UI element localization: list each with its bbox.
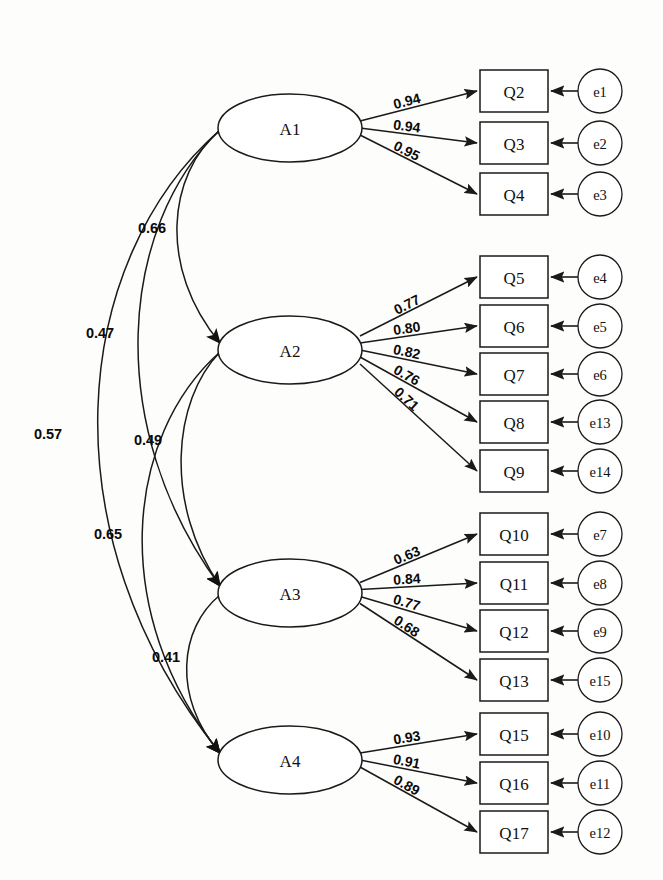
loading-label-a3-q12: 0.77 bbox=[391, 591, 422, 614]
error-label-e4: e4 bbox=[593, 270, 607, 286]
indicator-label-q15: Q15 bbox=[499, 726, 528, 745]
loading-path-a1-q4 bbox=[360, 135, 477, 194]
loading-label-a2-q5: 0.77 bbox=[391, 291, 423, 318]
loading-path-a4-q17 bbox=[360, 767, 477, 832]
indicator-label-q12: Q12 bbox=[499, 623, 528, 642]
loading-label-a3-q13: 0.68 bbox=[391, 612, 423, 640]
covariance-label-a1-a4: 0.57 bbox=[34, 426, 62, 442]
indicator-label-q10: Q10 bbox=[499, 526, 528, 545]
error-path-layer bbox=[551, 91, 578, 832]
error-label-e11: e11 bbox=[590, 776, 610, 792]
loading-label-a1-q2: 0.94 bbox=[392, 90, 423, 112]
covariance-path-a1-a2 bbox=[177, 130, 220, 343]
error-label-e13: e13 bbox=[590, 415, 611, 431]
error-label-e1: e1 bbox=[593, 84, 607, 100]
covariance-path-a3-a4 bbox=[187, 595, 220, 753]
diagram-canvas: 0.660.470.570.490.650.410.94Q2e10.94Q3e2… bbox=[0, 0, 663, 880]
covariance-path-a1-a3 bbox=[138, 130, 220, 586]
loading-label-a2-q8: 0.76 bbox=[391, 361, 423, 388]
loading-label-a1-q4: 0.95 bbox=[391, 137, 423, 164]
error-label-e9: e9 bbox=[593, 624, 607, 640]
indicator-label-q11: Q11 bbox=[500, 575, 529, 594]
loading-label-a2-q7: 0.82 bbox=[392, 341, 422, 362]
error-label-e14: e14 bbox=[590, 464, 612, 480]
loading-path-a2-q8 bbox=[360, 357, 477, 422]
error-label-e5: e5 bbox=[593, 319, 607, 335]
indicator-label-q13: Q13 bbox=[499, 672, 528, 691]
factor-label-a3: A3 bbox=[280, 585, 301, 604]
loading-label-a4-q17: 0.89 bbox=[391, 771, 423, 798]
indicator-label-q7: Q7 bbox=[504, 366, 525, 385]
covariance-label-a2-a4: 0.65 bbox=[94, 526, 122, 542]
indicator-label-q5: Q5 bbox=[504, 269, 525, 288]
error-label-e2: e2 bbox=[593, 136, 607, 152]
factor-loading-layer bbox=[360, 91, 477, 832]
sem-path-diagram: 0.660.470.570.490.650.410.94Q2e10.94Q3e2… bbox=[0, 0, 663, 880]
loading-label-a3-q10: 0.63 bbox=[391, 542, 422, 567]
error-label-e3: e3 bbox=[593, 187, 607, 203]
error-label-e10: e10 bbox=[590, 727, 611, 743]
covariance-label-a3-a4: 0.41 bbox=[152, 649, 180, 665]
factor-label-a2: A2 bbox=[280, 342, 301, 361]
indicator-label-q16: Q16 bbox=[499, 775, 528, 794]
indicator-label-q3: Q3 bbox=[504, 135, 525, 154]
loading-label-a4-q16: 0.91 bbox=[392, 751, 422, 772]
indicator-label-q4: Q4 bbox=[504, 186, 525, 205]
indicator-label-q17: Q17 bbox=[499, 824, 529, 843]
covariance-path-a2-a3 bbox=[181, 352, 220, 586]
factor-label-a4: A4 bbox=[280, 752, 301, 771]
error-label-e6: e6 bbox=[593, 367, 607, 383]
error-label-e15: e15 bbox=[590, 673, 611, 689]
covariance-path-a2-a4 bbox=[142, 352, 220, 753]
indicator-label-q8: Q8 bbox=[504, 414, 525, 433]
indicator-label-q2: Q2 bbox=[504, 83, 525, 102]
covariance-label-a2-a3: 0.49 bbox=[134, 432, 162, 448]
loading-label-a3-q11: 0.84 bbox=[393, 570, 421, 587]
factor-label-a1: A1 bbox=[280, 120, 301, 139]
indicator-label-q9: Q9 bbox=[504, 463, 525, 482]
error-label-e8: e8 bbox=[593, 576, 607, 592]
figure-caption bbox=[0, 854, 663, 880]
loading-path-a3-q13 bbox=[360, 604, 477, 681]
error-label-e12: e12 bbox=[590, 825, 611, 841]
covariance-label-a1-a2: 0.66 bbox=[138, 220, 166, 236]
indicator-label-q6: Q6 bbox=[504, 318, 525, 337]
error-label-e7: e7 bbox=[593, 527, 607, 543]
covariance-label-a1-a3: 0.47 bbox=[86, 325, 114, 341]
